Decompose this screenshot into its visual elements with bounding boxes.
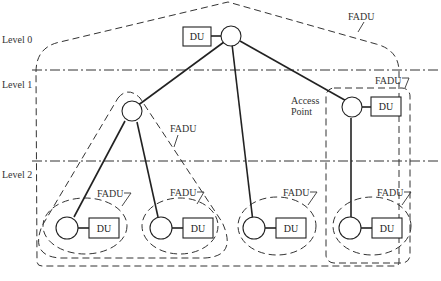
leaf-1-node [56, 217, 78, 239]
root-node [221, 26, 241, 46]
leaf-3-node [243, 217, 265, 239]
leaf-3-du-label: DU [284, 223, 299, 234]
edge-level1-to-leaf2 [137, 122, 158, 217]
access-point-node [342, 97, 362, 117]
leaf-1-du-label: DU [97, 223, 112, 234]
edge-root-to-level1-left [137, 42, 224, 106]
right-group-fadu-leader [402, 78, 409, 88]
access-point-label-line1: Access [291, 95, 319, 106]
right-group-fadu-label: FADU [375, 75, 402, 86]
fadu-hierarchy-diagram: Level 0 Level 1 Level 2 DU DU DU DU DU D… [0, 0, 441, 281]
root-du-label: DU [190, 31, 205, 42]
access-point-label-line2: Point [291, 106, 312, 117]
top-fadu-leader [358, 22, 364, 32]
leaf-4-node [339, 217, 361, 239]
leaf-4-du-label: DU [380, 223, 395, 234]
leaf-2-fadu-label: FADU [170, 187, 197, 198]
edge-root-to-access-point [240, 41, 350, 103]
leaf-2-node [150, 217, 172, 239]
left-triangle-fadu-leader [174, 135, 178, 147]
left-triangle-fadu-label: FADU [170, 123, 197, 134]
level1-left-node [122, 101, 142, 121]
leaf-1-fadu-label: FADU [97, 188, 124, 199]
ap-du-label: DU [379, 101, 394, 112]
leaf-2-du-label: DU [191, 223, 206, 234]
level-2-label: Level 2 [2, 169, 32, 180]
leaf-3-fadu-label: FADU [283, 187, 310, 198]
edge-root-to-leaf3 [232, 44, 253, 222]
top-fadu-label: FADU [348, 11, 375, 22]
level-1-label: Level 1 [2, 79, 32, 90]
edge-level1-to-leaf1 [74, 121, 125, 217]
level-0-label: Level 0 [2, 34, 32, 45]
leaf-4-fadu-label: FADU [377, 187, 404, 198]
